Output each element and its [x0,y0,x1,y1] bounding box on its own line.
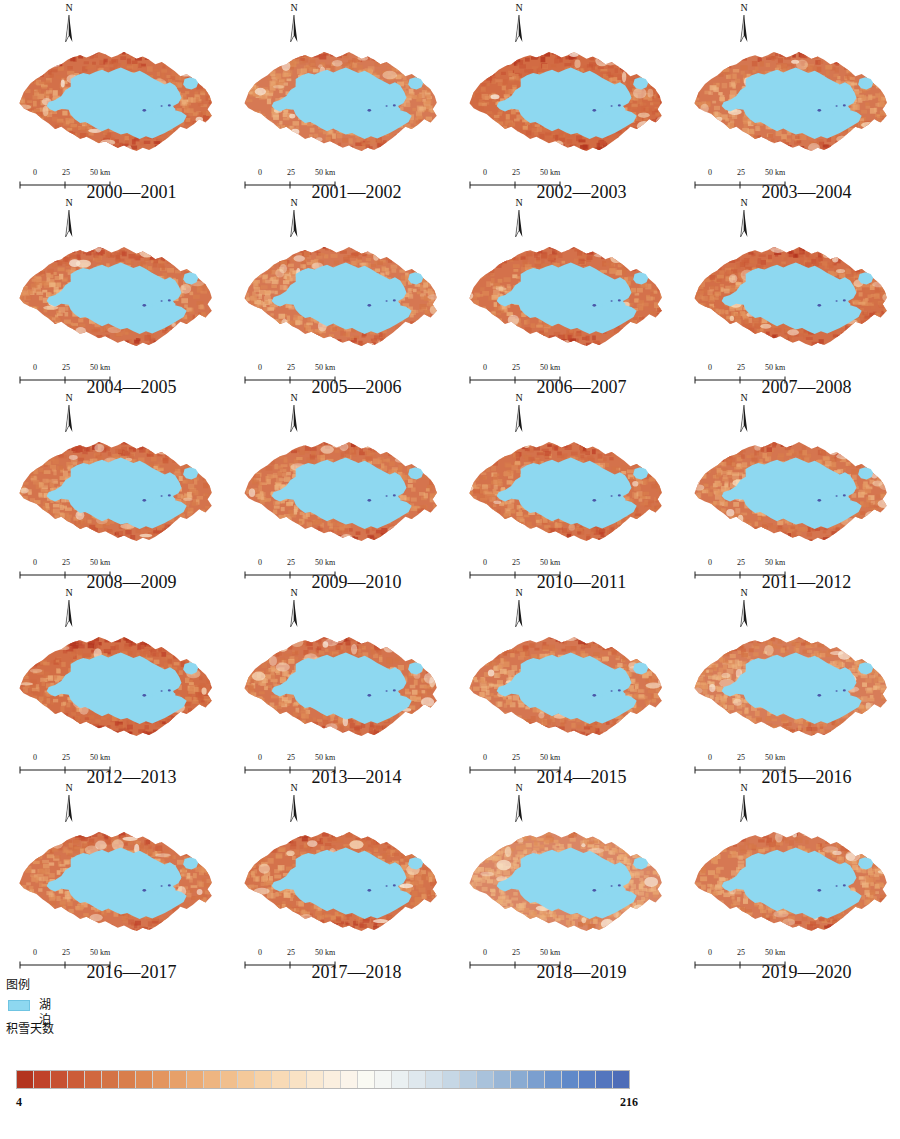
north-arrow-icon: N [56,589,82,633]
satellite-pond [396,498,401,500]
satellite-pond [618,884,621,886]
satellite-pond [164,691,168,694]
scale-bar-tick-label: 25 [737,753,745,762]
map-panel: N02550 km2000—2001 [0,0,225,195]
satellite-pond [161,300,163,302]
north-needle-icon [281,599,307,629]
satellite-pond [607,111,609,114]
satellite-pond [839,886,843,889]
map-body [683,436,892,546]
legend-snow-days-title: 积雪天数 [6,1022,54,1036]
satellite-pond [157,696,159,699]
north-letter: N [731,783,757,793]
satellite-pond [602,498,607,501]
satellite-pond [393,494,396,496]
scale-bar-tick-label: 25 [287,363,295,372]
colorbar-max-label: 216 [620,1095,638,1109]
satellite-pond [843,494,846,496]
north-arrow-icon: N [281,4,307,48]
satellite-pond [368,499,372,502]
scale-bar-tick-label: 25 [62,363,70,372]
satellite-pond [843,104,846,106]
map-panel: N02550 km2009—2010 [225,390,450,585]
scale-bar-tick-label: 0 [483,558,487,567]
basin-map-graphic [233,631,442,741]
satellite-pond [382,891,384,894]
satellite-pond [393,299,396,301]
colorbar-cell [221,1071,238,1088]
satellite-pond [161,105,163,107]
satellite-pond [152,303,157,306]
scale-bar-tick-label: 0 [483,753,487,762]
basin-map-graphic [8,436,217,546]
satellite-pond [618,689,621,691]
map-body [233,241,442,351]
scale-bar-tick-label: 0 [483,168,487,177]
satellite-pond [157,111,159,114]
scale-bar-tick-label: 25 [737,168,745,177]
north-needle-icon [281,14,307,44]
scale-bar-tick-label: 25 [62,558,70,567]
satellite-pond [614,301,618,304]
satellite-pond [396,693,401,695]
basin-map-graphic [233,241,442,351]
colorbar-cell [511,1071,528,1088]
scale-bar-tick-label: 0 [258,558,262,567]
colorbar-cell [204,1071,221,1088]
scale-bar-tick-label: 50 km [90,753,110,762]
colorbar-cell [613,1071,629,1088]
colorbar-cell [85,1071,102,1088]
scale-bar-tick-label: 0 [483,363,487,372]
satellite-pond [368,304,372,307]
colorbar-min-label: 4 [16,1095,22,1109]
scale-bar-tick-label: 25 [62,168,70,177]
colorbar-cell [494,1071,511,1088]
map-body [233,826,442,936]
satellite-pond [161,885,163,887]
satellite-pond [598,696,602,698]
basin-map-graphic [458,826,667,936]
scale-bar-tick-label: 50 km [765,558,785,567]
north-needle-icon [731,14,757,44]
satellite-pond [377,303,382,306]
colorbar-cell [562,1071,579,1088]
satellite-pond [377,693,382,696]
satellite-pond [143,889,147,892]
satellite-pond [368,109,372,112]
scale-bar-tick-label: 50 km [90,948,110,957]
north-arrow-icon: N [56,784,82,828]
scale-bar-tick-label: 0 [33,948,37,957]
satellite-pond [393,689,396,691]
scale-bar-tick-label: 50 km [765,948,785,957]
satellite-pond [148,696,152,698]
satellite-pond [386,885,388,887]
north-arrow-icon: N [506,199,532,243]
colorbar-cell [375,1071,392,1088]
north-letter: N [506,783,532,793]
satellite-pond [593,499,597,502]
north-arrow-icon: N [506,784,532,828]
map-body [233,46,442,156]
north-needle-icon [56,404,82,434]
satellite-pond [823,891,827,893]
colorbar-cell [255,1071,272,1088]
satellite-pond [839,106,843,109]
satellite-pond [611,300,613,302]
colorbar-cell [34,1071,51,1088]
scale-bar-tick-label: 25 [737,363,745,372]
map-body [683,826,892,936]
north-arrow-icon: N [281,394,307,438]
satellite-pond [846,108,851,110]
satellite-pond [611,495,613,497]
satellite-pond [171,303,176,305]
map-panel: N02550 km2002—2003 [450,0,675,195]
north-arrow-icon: N [506,589,532,633]
satellite-pond [396,108,401,110]
satellite-pond [832,696,834,699]
colorbar-cell [102,1071,119,1088]
basin-map-graphic [683,436,892,546]
north-letter: N [56,783,82,793]
satellite-pond [152,888,157,891]
basin-map-graphic [233,826,442,936]
satellite-pond [168,299,171,301]
